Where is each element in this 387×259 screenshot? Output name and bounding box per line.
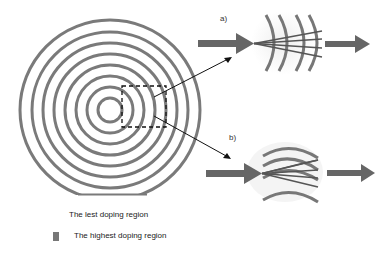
panel-b-label: b) — [229, 133, 236, 142]
pointer-line-a — [154, 58, 230, 97]
input-arrow-a-shaft — [198, 40, 238, 47]
panel-a-label: a) — [220, 14, 227, 23]
input-arrow-b-shaft — [206, 170, 246, 177]
diagram-figure — [0, 0, 387, 259]
output-arrow-a-shaft — [325, 41, 357, 47]
legend-swatch-highest-doping — [53, 232, 59, 241]
input-arrow-a-head — [236, 33, 254, 54]
output-arrow-a-head — [355, 35, 370, 53]
output-arrow-b-shaft — [327, 170, 363, 176]
pointer-arrowhead-b — [223, 153, 231, 159]
legend-label-highest-doping: The highest doping region — [74, 231, 167, 240]
output-arrow-b-head — [361, 164, 375, 182]
concentric-ring-lens — [20, 20, 200, 200]
legend-label-lowest-doping: The lest doping region — [69, 210, 148, 219]
panel-b — [206, 142, 375, 202]
